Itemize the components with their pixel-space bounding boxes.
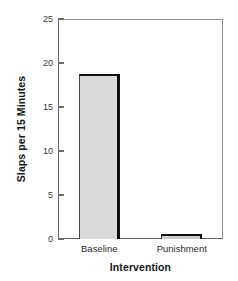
y-tick-mark [58,18,64,19]
y-tick-mark [58,62,64,63]
bar-body [79,74,120,239]
y-tick-mark [58,238,64,239]
y-tick-mark [58,194,64,195]
y-tick-mark [58,150,64,151]
y-axis-title: Slaps per 15 Minutes [14,19,28,239]
x-tick-label: Punishment [141,243,224,255]
y-tick-label: 0 [0,233,53,245]
bar-punishment [161,234,202,239]
bar-body [161,234,202,239]
y-tick-label: 5 [0,189,53,201]
y-tick-mark [58,106,64,107]
bar-baseline [79,74,120,239]
x-axis-title: Intervention [58,261,223,273]
y-tick-label: 15 [0,101,53,113]
bar-chart: Slaps per 15 Minutes 0510152025 Baseline… [0,0,238,281]
y-tick-label: 20 [0,57,53,69]
y-tick-label: 25 [0,13,53,25]
y-tick-label: 10 [0,145,53,157]
x-tick-label: Baseline [58,243,141,255]
